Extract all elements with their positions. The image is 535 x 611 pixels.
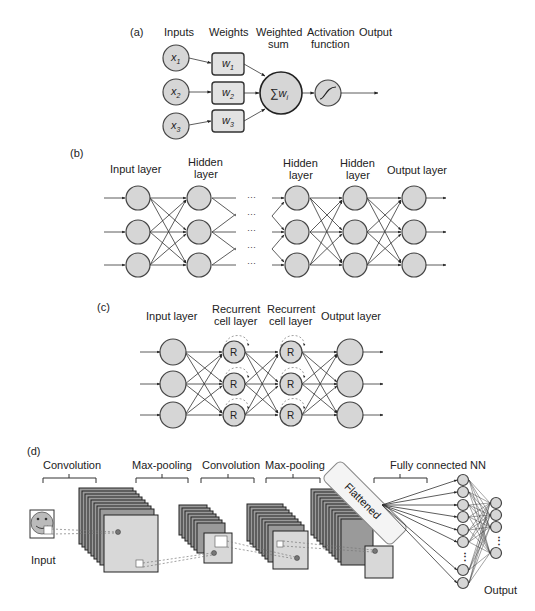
hidden-layer-node <box>285 253 309 277</box>
neural-network-figure: (a) Inputs Weights Weighted sum Activati… <box>0 0 535 611</box>
header-activation-1: Activation <box>307 26 355 38</box>
input-label: Input <box>31 554 55 566</box>
vertical-ellipsis: ⋮ <box>460 551 470 562</box>
stage-label-convolution-1: Convolution <box>43 459 101 471</box>
layer-label-input: Input layer <box>110 163 162 175</box>
activation-node <box>315 80 341 106</box>
hidden-layer-node <box>343 186 367 210</box>
svg-text:∑wi: ∑wi <box>270 86 289 101</box>
input-layer-node <box>160 371 186 397</box>
layer-label-hidden-2b: layer <box>289 169 313 181</box>
layer-label-recurrent-1a: Recurrent <box>212 303 260 315</box>
output-layer-node <box>402 186 426 210</box>
header-weighted-sum-1: Weighted <box>256 26 302 38</box>
svg-text:···: ··· <box>247 242 256 252</box>
svg-text:···: ··· <box>247 192 256 202</box>
panel-b-deep-network: (b) Input layer Hidden layer Hidden laye… <box>70 147 447 277</box>
svg-text:R: R <box>230 410 237 421</box>
hidden-layer-node <box>343 220 367 244</box>
brace-convolution-2 <box>201 474 254 483</box>
layer-label-recurrent-2b: cell layer <box>269 315 313 327</box>
layer-label-hidden-3a: Hidden <box>340 157 375 169</box>
input-layer-node <box>126 220 150 244</box>
panel-a-tag: (a) <box>130 26 143 38</box>
svg-text:···: ··· <box>247 209 256 219</box>
conv2-feature-maps <box>247 504 308 569</box>
svg-text:···: ··· <box>247 225 256 235</box>
output-layer-node <box>337 339 363 365</box>
conv1-feature-maps <box>79 488 158 572</box>
header-weights: Weights <box>209 26 249 38</box>
header-output: Output <box>359 26 392 38</box>
output-layer-node <box>337 371 363 397</box>
hidden-layer-node <box>285 186 309 210</box>
brace-maxpool-2 <box>266 474 320 483</box>
layer-label-hidden-1b: layer <box>194 168 218 180</box>
layer-label-output: Output layer <box>321 310 381 322</box>
panel-b-tag: (b) <box>70 147 83 159</box>
hidden-layer-node <box>285 220 309 244</box>
layer-label-hidden-1a: Hidden <box>188 156 223 168</box>
svg-text:R: R <box>287 347 294 358</box>
stage-label-fully-connected: Fully connected NN <box>390 459 486 471</box>
hidden-layer-node <box>343 253 367 277</box>
input-layer-node <box>126 186 150 210</box>
layer-label-hidden-2a: Hidden <box>283 157 318 169</box>
layer-label-recurrent-2a: Recurrent <box>267 303 315 315</box>
input-layer-node <box>160 402 186 428</box>
hidden-layer-node <box>187 253 211 277</box>
layer-label-recurrent-1b: cell layer <box>214 315 258 327</box>
output-label: Output <box>484 584 517 596</box>
fc-hidden-nodes: ⋮ <box>458 475 471 589</box>
input-layer-node <box>160 339 186 365</box>
svg-text:···: ··· <box>247 258 256 268</box>
pool1-feature-maps <box>179 505 232 563</box>
panel-d-cnn: (d) Convolution Max-pooling Convolution … <box>27 445 517 596</box>
output-layer-node <box>402 253 426 277</box>
fc-output-nodes: ⋮ <box>491 498 505 559</box>
header-inputs: Inputs <box>164 26 194 38</box>
svg-text:R: R <box>287 410 294 421</box>
stage-label-maxpool-1: Max-pooling <box>132 459 192 471</box>
svg-text:R: R <box>287 379 294 390</box>
vertical-ellipsis: ⋮ <box>494 535 504 546</box>
stage-label-convolution-2: Convolution <box>202 459 260 471</box>
hidden-layer-node <box>187 186 211 210</box>
brace-maxpool-1 <box>136 474 188 483</box>
input-image <box>30 510 54 538</box>
output-layer-node <box>402 220 426 244</box>
panel-c-recurrent-network: (c) Input layer Recurrent cell layer Rec… <box>97 301 383 428</box>
panel-c-tag: (c) <box>97 301 110 313</box>
header-activation-2: function <box>311 38 350 50</box>
layer-label-output: Output layer <box>387 164 447 176</box>
input-layer-node <box>126 253 150 277</box>
hidden-layer-node <box>187 220 211 244</box>
header-weighted-sum-2: sum <box>268 38 289 50</box>
brace-convolution-1 <box>43 474 96 483</box>
svg-text:R: R <box>230 379 237 390</box>
layer-label-hidden-3b: layer <box>346 169 370 181</box>
layer-label-input: Input layer <box>146 310 198 322</box>
brace-fully-connected <box>374 474 427 483</box>
output-layer-node <box>337 402 363 428</box>
panel-a-perceptron: (a) Inputs Weights Weighted sum Activati… <box>130 26 392 139</box>
panel-d-tag: (d) <box>27 445 40 457</box>
stage-label-maxpool-2: Max-pooling <box>265 459 325 471</box>
svg-text:R: R <box>230 347 237 358</box>
